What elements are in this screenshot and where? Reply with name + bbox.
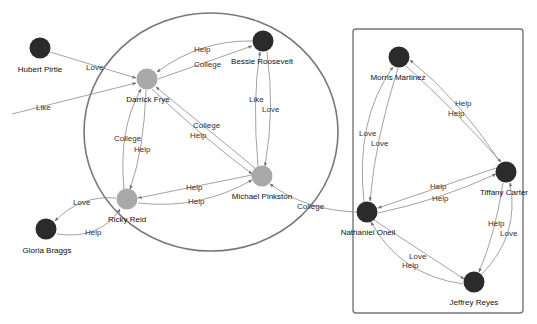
node-tiffany-carter[interactable]: Tiffany Carter (480, 162, 528, 198)
edge-label: Love (500, 229, 518, 238)
edge-label: College (193, 121, 221, 130)
edge-michael-bessie[interactable] (255, 52, 260, 166)
node-jeffrey-reyes[interactable]: Jeffrey Reyes (450, 272, 499, 308)
edge-label: Help (186, 183, 203, 192)
edge-label: Like (249, 95, 264, 104)
node-nathaniel-oneil[interactable]: Nathaniel Oneil (341, 202, 396, 238)
node-circle[interactable] (464, 272, 485, 293)
node-circle[interactable] (117, 189, 138, 210)
edge-label: Help (190, 131, 207, 140)
node-bessie-roosevelt[interactable]: Bessie Roosevelt (231, 31, 294, 67)
node-ricky-reid[interactable]: Ricky Reid (108, 189, 146, 225)
node-circle[interactable] (36, 219, 57, 240)
node-label: Morris Martinez (370, 73, 425, 82)
node-circle[interactable] (30, 38, 51, 59)
node-label: Darrick Frye (126, 95, 170, 104)
edge-label: College (114, 134, 142, 143)
node-circle[interactable] (137, 69, 158, 90)
edge-like-darrick[interactable] (12, 83, 136, 114)
edge-label: Help (488, 219, 505, 228)
node-circle[interactable] (252, 166, 273, 187)
edge-label: Love (371, 139, 389, 148)
node-label: Ricky Reid (108, 215, 146, 224)
node-label: Tiffany Carter (480, 188, 528, 197)
graph-canvas: Love Like Help College College Help Coll… (0, 0, 537, 324)
node-circle[interactable] (496, 162, 517, 183)
edge-label: Help (134, 145, 151, 154)
edge-label: Help (455, 99, 472, 108)
node-circle[interactable] (253, 31, 274, 52)
edges (12, 41, 512, 284)
graph-svg: Love Like Help College College Help Coll… (0, 0, 537, 324)
node-label: Bessie Roosevelt (231, 57, 294, 66)
edge-labels: Love Like Help College College Help Coll… (36, 45, 518, 270)
node-darrick-frye[interactable]: Darrick Frye (126, 69, 170, 105)
node-michael-pinkston[interactable]: Michael Pinkston (232, 166, 292, 202)
edge-label: Love (86, 63, 104, 72)
edge-label: Help (188, 197, 205, 206)
edge-label: Love (73, 198, 91, 207)
node-hubert-pirtle[interactable]: Hubert Pirtle (18, 38, 63, 75)
edge-label: Like (36, 103, 51, 112)
node-label: Gloria Braggs (23, 246, 72, 255)
edge-label: Help (402, 261, 419, 270)
node-label: Jeffrey Reyes (450, 298, 499, 307)
edge-label: College (297, 202, 325, 211)
edge-label: Help (448, 109, 465, 118)
node-circle[interactable] (389, 47, 410, 68)
edge-label: Love (359, 129, 377, 138)
node-gloria-braggs[interactable]: Gloria Braggs (23, 219, 72, 256)
node-circle[interactable] (357, 202, 378, 223)
edge-label: College (194, 60, 222, 69)
edge-label: Help (432, 194, 449, 203)
node-label: Nathaniel Oneil (341, 228, 396, 237)
edge-label: Help (194, 45, 211, 54)
node-label: Hubert Pirtle (18, 65, 63, 74)
node-morris-martinez[interactable]: Morris Martinez (370, 47, 425, 83)
node-label: Michael Pinkston (232, 192, 292, 201)
edge-label: Love (409, 252, 427, 261)
edge-label: Help (85, 228, 102, 237)
edge-label: Love (262, 105, 280, 114)
edge-label: Help (430, 182, 447, 191)
